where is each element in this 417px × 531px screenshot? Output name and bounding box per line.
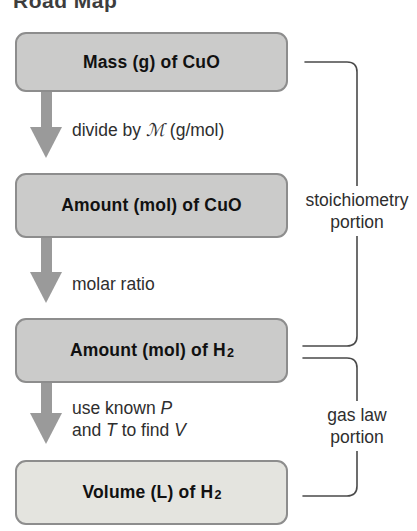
- down-arrow-icon: [30, 127, 62, 158]
- step-label-text: and: [72, 420, 101, 440]
- down-arrow-icon: [41, 383, 52, 414]
- flow-box-amount-h2: Amount (mol) of H2: [15, 318, 288, 383]
- pressure-variable: P: [161, 398, 173, 418]
- down-arrow-icon: [41, 92, 52, 128]
- down-arrow-icon: [41, 238, 52, 273]
- side-label-line: portion: [327, 426, 386, 448]
- side-label-line: gas law: [327, 404, 386, 426]
- molar-mass-symbol: ℳ: [146, 120, 165, 140]
- step-label-line: and T to find V: [72, 419, 186, 441]
- volume-variable: V: [174, 420, 186, 440]
- road-map-diagram: Road Map Mass (g) of CuO Amount (mol) of…: [0, 0, 417, 531]
- flow-box-label: Volume (L) of H: [82, 482, 213, 503]
- step-label-line: use known P: [72, 397, 186, 419]
- flow-box-amount-cuo: Amount (mol) of CuO: [15, 173, 288, 238]
- flow-box-label: Amount (mol) of CuO: [61, 195, 242, 216]
- side-label-line: stoichiometry: [305, 189, 408, 211]
- step-label-divide-by-molar-mass: divide by ℳ (g/mol): [72, 119, 224, 141]
- down-arrow-icon: [30, 272, 62, 303]
- step-label-text: to find: [122, 420, 170, 440]
- step-label-text: molar ratio: [72, 274, 155, 294]
- diagram-title: Road Map: [13, 0, 117, 13]
- step-label-text: divide by: [72, 120, 141, 140]
- step-label-text: use known: [72, 398, 156, 418]
- gas-law-portion-label: gas law portion: [325, 401, 388, 451]
- step-label-text: (g/mol): [170, 120, 224, 140]
- stoichiometry-portion-label: stoichiometry portion: [303, 186, 410, 236]
- step-label-molar-ratio: molar ratio: [72, 273, 155, 295]
- side-label-line: portion: [305, 211, 408, 233]
- down-arrow-icon: [30, 413, 62, 444]
- flow-box-label: Mass (g) of CuO: [83, 52, 220, 73]
- flow-box-label: Amount (mol) of H: [70, 340, 226, 361]
- temperature-variable: T: [106, 420, 117, 440]
- step-label-gas-law: use known P and T to find V: [72, 397, 186, 441]
- flow-box-volume-h2: Volume (L) of H2: [15, 460, 288, 525]
- flow-box-mass-cuo: Mass (g) of CuO: [15, 32, 288, 92]
